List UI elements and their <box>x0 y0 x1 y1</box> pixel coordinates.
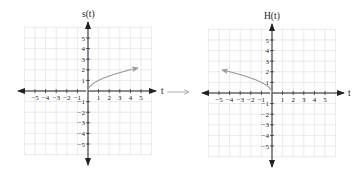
svg-text:−1: −1 <box>262 100 270 108</box>
svg-text:3: 3 <box>82 56 86 64</box>
svg-text:3: 3 <box>118 94 122 102</box>
svg-text:−2: −2 <box>78 109 86 117</box>
svg-text:5: 5 <box>323 96 327 104</box>
right-y-axis-title: H(t) <box>264 11 280 22</box>
svg-text:5: 5 <box>82 35 86 43</box>
svg-text:−2: −2 <box>63 94 71 102</box>
svg-text:1: 1 <box>97 94 101 102</box>
svg-text:−4: −4 <box>78 130 86 138</box>
svg-text:−3: −3 <box>262 121 270 129</box>
left-graph: −5−4−3−2−112345−5−4−3−2−112345 s(t) t <box>18 9 164 165</box>
svg-text:4: 4 <box>313 96 317 104</box>
svg-text:−4: −4 <box>262 132 270 140</box>
svg-text:1: 1 <box>82 77 86 85</box>
svg-text:2: 2 <box>291 96 295 104</box>
svg-text:−5: −5 <box>31 94 39 102</box>
svg-text:−3: −3 <box>52 94 60 102</box>
svg-text:−5: −5 <box>262 143 270 151</box>
svg-text:−4: −4 <box>42 94 50 102</box>
svg-text:−2: −2 <box>247 96 255 104</box>
left-x-axis-title: t <box>161 86 164 96</box>
svg-text:1: 1 <box>281 96 285 104</box>
figure: −5−4−3−2−112345−5−4−3−2−112345 s(t) t −5… <box>0 0 360 175</box>
svg-text:3: 3 <box>302 96 306 104</box>
svg-text:−5: −5 <box>215 96 223 104</box>
svg-text:2: 2 <box>107 94 111 102</box>
svg-text:3: 3 <box>266 58 270 66</box>
svg-text:−1: −1 <box>78 98 86 106</box>
svg-text:−5: −5 <box>78 141 86 149</box>
right-graph: −5−4−3−2−112345−5−4−3−2−112345 H(t) t <box>202 11 351 167</box>
svg-text:4: 4 <box>266 47 270 55</box>
svg-text:−3: −3 <box>236 96 244 104</box>
svg-text:2: 2 <box>266 68 270 76</box>
svg-text:−3: −3 <box>78 119 86 127</box>
svg-text:−2: −2 <box>262 111 270 119</box>
svg-text:4: 4 <box>82 45 86 53</box>
svg-text:−4: −4 <box>226 96 234 104</box>
svg-text:5: 5 <box>139 94 143 102</box>
svg-text:5: 5 <box>266 37 270 45</box>
svg-text:4: 4 <box>129 94 133 102</box>
svg-text:2: 2 <box>82 66 86 74</box>
right-x-axis-title: t <box>348 88 351 98</box>
transition-arrow <box>167 90 189 95</box>
left-y-axis-title: s(t) <box>82 9 95 20</box>
